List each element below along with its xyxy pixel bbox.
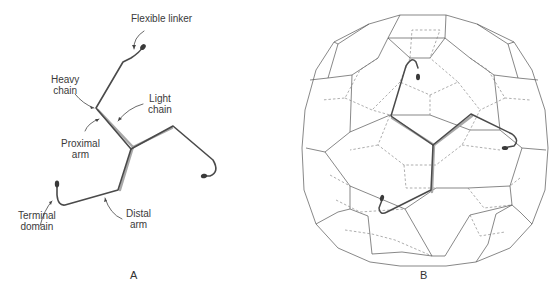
terminal-domains (55, 43, 208, 187)
triskelion-diagram (40, 31, 216, 226)
light-chain (98, 110, 172, 190)
panel-label-a: A (130, 269, 137, 281)
heavy-chain (57, 48, 216, 205)
label-proximal-arm: Proximal arm (61, 138, 100, 160)
label-light-chain: Light chain (148, 93, 172, 115)
label-terminal-domain: Terminal domain (18, 210, 56, 232)
label-heavy-chain: Heavy chain (51, 74, 79, 96)
label-flexible-linker: Flexible linker (131, 13, 192, 24)
cage-back-edges (322, 30, 530, 256)
panel-label-b: B (420, 269, 427, 281)
label-distal-arm: Distal arm (126, 208, 151, 230)
